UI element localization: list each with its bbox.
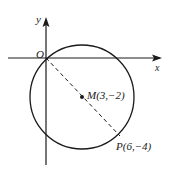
center-label: M(3,−2) [87, 90, 125, 101]
y-axis-label: y [36, 14, 41, 25]
x-axis-label: x [155, 63, 159, 73]
center-point [80, 95, 84, 99]
point-p-label: P(6,−4) [116, 141, 151, 152]
coordinate-diagram: y x O M(3,−2) P(6,−4) [0, 0, 174, 170]
origin-label: O [36, 49, 44, 60]
